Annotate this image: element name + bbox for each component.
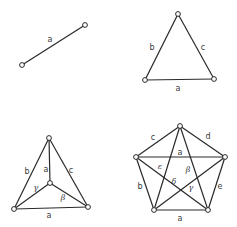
edge-label: a bbox=[178, 215, 183, 223]
graph-vertex bbox=[178, 124, 183, 129]
single-edge-graph bbox=[20, 23, 88, 68]
graph-edge bbox=[145, 79, 214, 80]
edge-label: a bbox=[178, 149, 183, 157]
graph-edge bbox=[14, 183, 50, 209]
edge-label: c bbox=[201, 44, 205, 52]
graph-vertex bbox=[206, 208, 211, 213]
diagram-canvas bbox=[0, 0, 237, 227]
graph-edge bbox=[180, 126, 225, 157]
edge-label: a bbox=[44, 166, 49, 174]
graph-vertex bbox=[176, 12, 181, 17]
graph-vertex bbox=[143, 78, 148, 83]
edge-label: a bbox=[47, 212, 52, 220]
edge-label: β bbox=[61, 194, 66, 202]
edge-label: ε bbox=[158, 163, 162, 171]
graph-edge bbox=[14, 207, 88, 209]
edge-label: β bbox=[186, 166, 191, 174]
edge-label: e bbox=[218, 183, 223, 191]
edge-label: b bbox=[137, 183, 142, 191]
edge-label: a bbox=[176, 85, 181, 93]
triangle-with-center-graph bbox=[12, 136, 91, 212]
graph-edge bbox=[180, 126, 208, 210]
graph-vertex bbox=[223, 155, 228, 160]
graph-edge bbox=[22, 25, 85, 65]
graph-vertex bbox=[20, 63, 25, 68]
edge-label: c bbox=[151, 134, 155, 142]
graph-vertex bbox=[134, 155, 139, 160]
graph-edge bbox=[49, 138, 50, 183]
edge-label: γ bbox=[189, 184, 194, 192]
edge-label: a bbox=[48, 36, 53, 44]
complete-pentagon-graph bbox=[134, 124, 228, 213]
graph-vertex bbox=[47, 136, 52, 141]
graph-vertex bbox=[152, 208, 157, 213]
graph-edge bbox=[178, 14, 214, 79]
graph-edge bbox=[50, 183, 88, 207]
edge-label: b bbox=[24, 168, 29, 176]
edge-label: b bbox=[149, 44, 154, 52]
graph-vertex bbox=[83, 23, 88, 28]
graph-vertex bbox=[48, 181, 53, 186]
edge-label: c bbox=[69, 167, 73, 175]
edge-label: γ bbox=[34, 184, 39, 192]
edge-label: d bbox=[205, 133, 210, 141]
edge-label: δ bbox=[172, 178, 177, 186]
graph-vertex bbox=[86, 205, 91, 210]
graph-edge bbox=[136, 126, 180, 157]
graph-vertex bbox=[212, 77, 217, 82]
graph-vertex bbox=[12, 207, 17, 212]
